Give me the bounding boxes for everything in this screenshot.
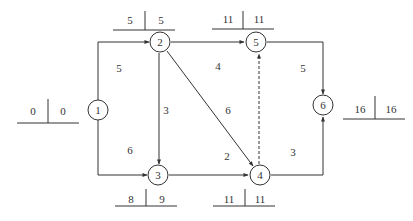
node-label-3: 3 — [155, 169, 161, 181]
earliest-time-3: 8 — [128, 193, 134, 205]
edge-label-2-5: 4 — [215, 60, 221, 72]
latest-time-6: 16 — [386, 103, 398, 115]
edge-2-4 — [167, 51, 253, 166]
node-label-5: 5 — [253, 36, 259, 48]
edge-label-2-3: 3 — [163, 104, 169, 116]
edge-label-1-3: 6 — [127, 144, 133, 156]
latest-time-3: 9 — [159, 193, 165, 205]
earliest-time-6: 16 — [355, 103, 367, 115]
node-label-6: 6 — [320, 99, 326, 111]
earliest-time-1: 0 — [30, 105, 36, 117]
edge-4-6 — [271, 117, 323, 175]
latest-time-4: 11 — [255, 193, 266, 205]
time-table-node-2: 5 5 — [113, 11, 175, 30]
edge-1-2 — [98, 42, 149, 100]
edge-label-4-6: 3 — [290, 146, 296, 158]
time-table-node-5: 11 11 — [212, 11, 274, 29]
node-5: 5 — [246, 32, 266, 52]
edge-label-2-4: 6 — [225, 104, 231, 116]
earliest-time-4: 11 — [224, 193, 235, 205]
node-label-1: 1 — [95, 104, 101, 116]
node-label-2: 2 — [157, 36, 163, 48]
network-diagram: 5 6 3 4 6 2 5 3 1 2 3 4 5 6 0 0 5 5 — [0, 0, 413, 221]
edge-label-1-2: 5 — [116, 62, 122, 74]
node-1: 1 — [88, 100, 108, 120]
latest-time-2: 5 — [158, 14, 164, 26]
time-table-node-4: 11 11 — [213, 189, 275, 206]
node-4: 4 — [250, 165, 270, 185]
latest-time-1: 0 — [60, 105, 66, 117]
edge-5-6 — [267, 42, 323, 94]
node-6: 6 — [313, 95, 333, 115]
edge-label-5-6: 5 — [300, 62, 306, 74]
time-table-node-6: 16 16 — [343, 96, 405, 119]
earliest-time-2: 5 — [127, 14, 133, 26]
node-2: 2 — [150, 32, 170, 52]
node-3: 3 — [148, 165, 168, 185]
earliest-time-5: 11 — [223, 13, 234, 25]
edge-label-3-4: 2 — [224, 150, 230, 162]
time-table-node-3: 8 9 — [115, 189, 177, 206]
edge-1-3 — [98, 120, 147, 175]
latest-time-5: 11 — [254, 13, 265, 25]
time-table-node-1: 0 0 — [17, 99, 79, 123]
node-label-4: 4 — [257, 169, 263, 181]
